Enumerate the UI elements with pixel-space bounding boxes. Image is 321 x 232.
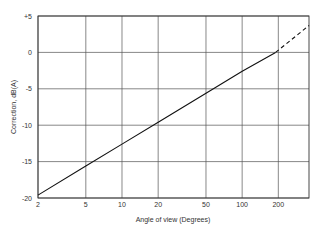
x-tick-labels: 25102050100200 bbox=[36, 201, 284, 208]
y-tick: -5 bbox=[26, 85, 32, 92]
x-tick: 5 bbox=[84, 201, 88, 208]
x-tick: 20 bbox=[154, 201, 162, 208]
y-tick: -20 bbox=[22, 195, 32, 202]
y-tick: 0 bbox=[28, 49, 32, 56]
data-series bbox=[38, 26, 309, 196]
chart: +50-5-10-15-20 25102050100200 Angle of v… bbox=[0, 0, 321, 232]
x-tick: 200 bbox=[272, 201, 284, 208]
y-tick: -10 bbox=[22, 122, 32, 129]
x-tick: 50 bbox=[202, 201, 210, 208]
y-tick: +5 bbox=[24, 13, 32, 20]
series-line bbox=[276, 26, 309, 53]
series-line bbox=[38, 52, 276, 195]
y-axis-label: Correction, dB(A) bbox=[10, 80, 18, 134]
x-axis-label: Angle of view (Degrees) bbox=[136, 216, 211, 224]
x-tick: 100 bbox=[236, 201, 248, 208]
x-tick: 10 bbox=[118, 201, 126, 208]
y-tick: -15 bbox=[22, 158, 32, 165]
y-tick-labels: +50-5-10-15-20 bbox=[22, 13, 32, 202]
x-tick: 2 bbox=[36, 201, 40, 208]
